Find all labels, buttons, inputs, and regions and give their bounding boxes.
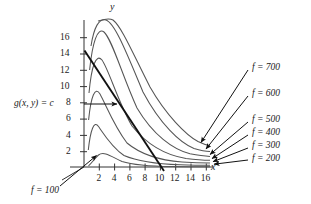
level-200-leader-arrow <box>214 160 248 164</box>
contour-plot-figure: y x 2 4 6 8 10 12 14 16 2 4 6 8 10 12 14… <box>0 0 311 204</box>
level-curves <box>88 19 210 167</box>
x-tick-label-8: 8 <box>142 174 147 184</box>
y-tick-label-14: 14 <box>60 49 70 59</box>
y-tick-label-4: 4 <box>66 131 71 141</box>
y-tick-label-16: 16 <box>60 33 70 43</box>
level-700-leader-arrow <box>201 70 248 143</box>
level-label-f-200: f = 200 <box>252 154 280 164</box>
level-label-f-500: f = 500 <box>252 115 280 125</box>
y-axis-label: y <box>110 2 114 12</box>
level-label-f-600: f = 600 <box>252 89 280 99</box>
constraint-line <box>85 51 165 172</box>
x-tick-label-12: 12 <box>170 174 180 184</box>
x-tick-label-2: 2 <box>97 174 102 184</box>
level-100-leader-arrow <box>60 156 97 187</box>
x-tick-label-6: 6 <box>127 174 132 184</box>
x-tick-label-16: 16 <box>201 174 211 184</box>
y-tick-label-10: 10 <box>60 82 70 92</box>
x-tick-label-10: 10 <box>155 174 165 184</box>
x-axis-label: x <box>211 162 215 172</box>
y-tick-label-2: 2 <box>66 147 71 157</box>
level-label-f-300: f = 300 <box>252 141 280 151</box>
y-tick-label-12: 12 <box>60 66 70 76</box>
axis-lines <box>62 20 213 180</box>
x-tick-label-4: 4 <box>112 174 117 184</box>
level-label-f-400: f = 400 <box>252 128 280 138</box>
y-tick-label-6: 6 <box>66 114 71 124</box>
y-tick-label-8: 8 <box>66 98 71 108</box>
level-leader-arrows <box>201 70 248 164</box>
level-600-leader-arrow <box>206 96 248 149</box>
level-label-f-700: f = 700 <box>252 63 280 73</box>
constraint-label: g(x, y) = c <box>14 99 54 109</box>
level-curve-f-300 <box>89 91 210 163</box>
level-label-f-100: f = 100 <box>31 186 59 196</box>
x-tick-label-14: 14 <box>185 174 195 184</box>
level-curve-f-700 <box>98 19 210 146</box>
